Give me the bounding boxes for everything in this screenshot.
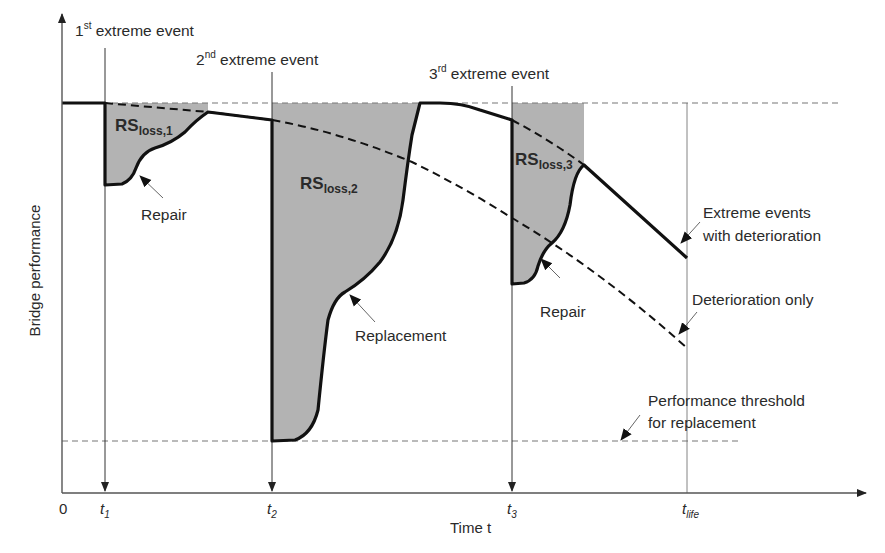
- replacement-label: Replacement: [355, 327, 446, 344]
- rs-loss-1-label: RSloss,1: [115, 116, 173, 138]
- repair-3-arrow: [541, 259, 560, 278]
- event-3-label: 3rd extreme event: [429, 65, 549, 82]
- threshold-label-2: for replacement: [648, 414, 756, 431]
- deterioration-only-label: Deterioration only: [692, 291, 813, 308]
- event-1-label: 1st extreme event: [75, 22, 194, 39]
- extreme-with-det-label-1: Extreme events: [703, 204, 811, 221]
- repair-3-label: Repair: [540, 303, 586, 320]
- diagram-canvas: [0, 0, 885, 553]
- resilience-diagram: 1st extreme event 2nd extreme event 3rd …: [0, 0, 885, 553]
- extreme-with-det-arrow: [681, 222, 700, 243]
- tick-t2: t2: [267, 500, 277, 520]
- threshold-label-1: Performance threshold: [648, 392, 805, 409]
- rs-loss-2-label: RSloss,2: [300, 174, 358, 196]
- rs-loss-3-label: RSloss,3: [515, 150, 573, 172]
- rs-loss-2-area: [272, 103, 420, 441]
- threshold-arrow: [621, 415, 640, 440]
- repair-1-arrow: [140, 176, 163, 198]
- replacement-arrow: [350, 295, 375, 322]
- repair-1-label: Repair: [141, 206, 187, 223]
- deterioration-only-arrow: [679, 312, 697, 334]
- tick-tlife: tlife: [682, 500, 699, 520]
- extreme-with-det-label-2: with deterioration: [703, 227, 821, 244]
- origin-label: 0: [59, 500, 67, 517]
- event-2-label: 2nd extreme event: [196, 51, 318, 68]
- tick-t3: t3: [507, 500, 517, 520]
- y-axis-label: Bridge performance: [26, 201, 43, 341]
- tick-t1: t1: [100, 500, 110, 520]
- x-axis-label: Time t: [450, 520, 491, 537]
